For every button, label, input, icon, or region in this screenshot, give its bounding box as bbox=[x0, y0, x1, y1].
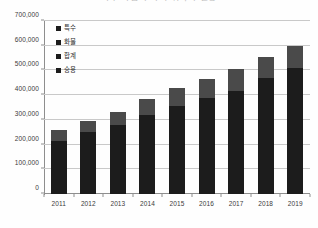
y-axis-tick-label: 700,000 bbox=[15, 11, 39, 18]
legend-swatch-icon bbox=[56, 54, 61, 59]
x-axis-tick-mark bbox=[250, 194, 251, 197]
x-axis-tick-label-2018: 2018 bbox=[258, 200, 273, 207]
legend-item-화물[interactable]: 화물 bbox=[56, 38, 76, 46]
bar-segment-승용-2016 bbox=[199, 98, 215, 194]
bar-segment-승용-2011 bbox=[51, 141, 67, 194]
y-axis-tick-label: 400,000 bbox=[15, 85, 39, 92]
bar-segment-합계-2016 bbox=[199, 79, 215, 98]
bar-segment-합계-2015 bbox=[169, 88, 185, 107]
legend-swatch-icon bbox=[56, 68, 61, 73]
bar-segment-합계-2017 bbox=[228, 69, 244, 91]
x-axis-tick-mark bbox=[191, 194, 192, 197]
bar-2013 bbox=[110, 112, 126, 194]
x-axis-tick-mark bbox=[73, 194, 74, 197]
x-axis-tick-label-2012: 2012 bbox=[81, 200, 96, 207]
bar-2015 bbox=[169, 88, 185, 194]
x-axis-tick-mark bbox=[162, 194, 163, 197]
chart-legend: 특수화물합계승용 bbox=[56, 24, 76, 74]
bar-segment-합계-2013 bbox=[110, 112, 126, 124]
bar-segment-승용-2013 bbox=[110, 125, 126, 194]
y-axis-tick-label: 600,000 bbox=[15, 35, 39, 42]
bar-segment-승용-2018 bbox=[258, 78, 274, 194]
x-axis-tick-mark bbox=[221, 194, 222, 197]
bar-2014 bbox=[139, 99, 155, 194]
x-axis-tick-mark bbox=[132, 194, 133, 197]
bar-segment-승용-2012 bbox=[80, 132, 96, 194]
x-axis-tick-label-2016: 2016 bbox=[199, 200, 214, 207]
x-axis-tick-mark bbox=[103, 194, 104, 197]
legend-swatch-icon bbox=[56, 40, 61, 45]
legend-item-label: 승용 bbox=[64, 66, 76, 74]
bar-segment-합계-2018 bbox=[258, 57, 274, 78]
chart-title: 특수 작업자 자격 취득자 현황 bbox=[0, 0, 318, 2]
x-axis-tick-label-2011: 2011 bbox=[52, 200, 66, 207]
bar-segment-합계-2019 bbox=[287, 46, 303, 68]
x-axis-tick-label-2019: 2019 bbox=[288, 200, 303, 207]
legend-item-합계[interactable]: 합계 bbox=[56, 52, 76, 60]
x-axis-tick-label-2015: 2015 bbox=[170, 200, 185, 207]
bar-2016 bbox=[199, 79, 215, 194]
bar-2019 bbox=[287, 46, 303, 194]
bar-segment-합계-2012 bbox=[80, 121, 96, 132]
legend-item-특수[interactable]: 특수 bbox=[56, 24, 76, 32]
bar-segment-승용-2014 bbox=[139, 115, 155, 194]
legend-swatch-icon bbox=[56, 26, 61, 31]
bar-segment-합계-2014 bbox=[139, 99, 155, 115]
plot-area: 0100,000200,000300,000400,000500,000600,… bbox=[44, 21, 310, 194]
bar-2012 bbox=[80, 121, 96, 194]
legend-item-label: 합계 bbox=[64, 52, 76, 60]
legend-item-승용[interactable]: 승용 bbox=[56, 66, 76, 74]
bar-2017 bbox=[228, 69, 244, 194]
x-axis-tick-label-2014: 2014 bbox=[140, 200, 155, 207]
legend-item-label: 화물 bbox=[64, 38, 76, 46]
y-axis-tick-label: 500,000 bbox=[15, 60, 39, 67]
bar-2011 bbox=[51, 130, 67, 194]
x-axis-tick-label-2013: 2013 bbox=[110, 200, 125, 207]
x-axis-tick-mark bbox=[44, 194, 45, 197]
y-axis-tick-label: 100,000 bbox=[15, 159, 39, 166]
x-axis-tick-label-2017: 2017 bbox=[229, 200, 244, 207]
x-axis-tick-mark bbox=[280, 194, 281, 197]
bar-2018 bbox=[258, 57, 274, 194]
x-axis-tick-mark bbox=[310, 194, 311, 197]
bar-segment-승용-2019 bbox=[287, 68, 303, 194]
y-axis-tick-label: 0 bbox=[35, 184, 39, 191]
bar-segment-승용-2015 bbox=[169, 106, 185, 194]
legend-item-label: 특수 bbox=[64, 24, 76, 32]
y-axis-tick-label: 200,000 bbox=[15, 134, 39, 141]
bar-chart: 특수 작업자 자격 취득자 현황 0100,000200,000300,0004… bbox=[0, 0, 318, 228]
bar-segment-승용-2017 bbox=[228, 91, 244, 194]
y-axis-tick-label: 300,000 bbox=[15, 109, 39, 116]
bar-segment-합계-2011 bbox=[51, 130, 67, 141]
bars-layer bbox=[44, 21, 310, 194]
